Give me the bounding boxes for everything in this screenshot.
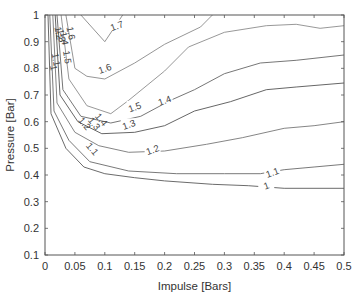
- y-tick-label: 0.2: [24, 222, 39, 234]
- y-tick-label: 0.4: [24, 169, 39, 181]
- x-tick-label: 0.4: [277, 260, 292, 272]
- x-tick-label: 0.15: [124, 260, 145, 272]
- x-tick-label: 0.2: [157, 260, 172, 272]
- x-tick-label: 0.3: [217, 260, 232, 272]
- x-tick-label: 0.05: [64, 260, 85, 272]
- y-tick-label: 0.7: [24, 89, 39, 101]
- x-tick-label: 0.1: [97, 260, 112, 272]
- x-tick-label: 0.35: [244, 260, 265, 272]
- y-tick-label: 1: [33, 9, 39, 21]
- x-tick-label: 0: [42, 260, 48, 272]
- x-axis-title: Impulse [Bars]: [158, 280, 232, 292]
- x-tick-label: 0.5: [336, 260, 351, 272]
- contour-chart: 1.71.61.51.41.31.21.111.61.51.41.31.21.1…: [0, 0, 361, 299]
- y-axis-title: Pressure [Bar]: [4, 98, 16, 172]
- y-tick-label: 0.1: [24, 249, 39, 261]
- contour-label-steep: 1.2: [53, 26, 66, 41]
- y-tick-label: 0.6: [24, 116, 39, 128]
- y-tick-label: 0.9: [24, 36, 39, 48]
- x-tick-label: 0.45: [303, 260, 324, 272]
- y-tick-label: 0.5: [24, 142, 39, 154]
- y-tick-label: 0.8: [24, 62, 39, 74]
- y-tick-label: 0.3: [24, 196, 39, 208]
- x-tick-label: 0.25: [184, 260, 205, 272]
